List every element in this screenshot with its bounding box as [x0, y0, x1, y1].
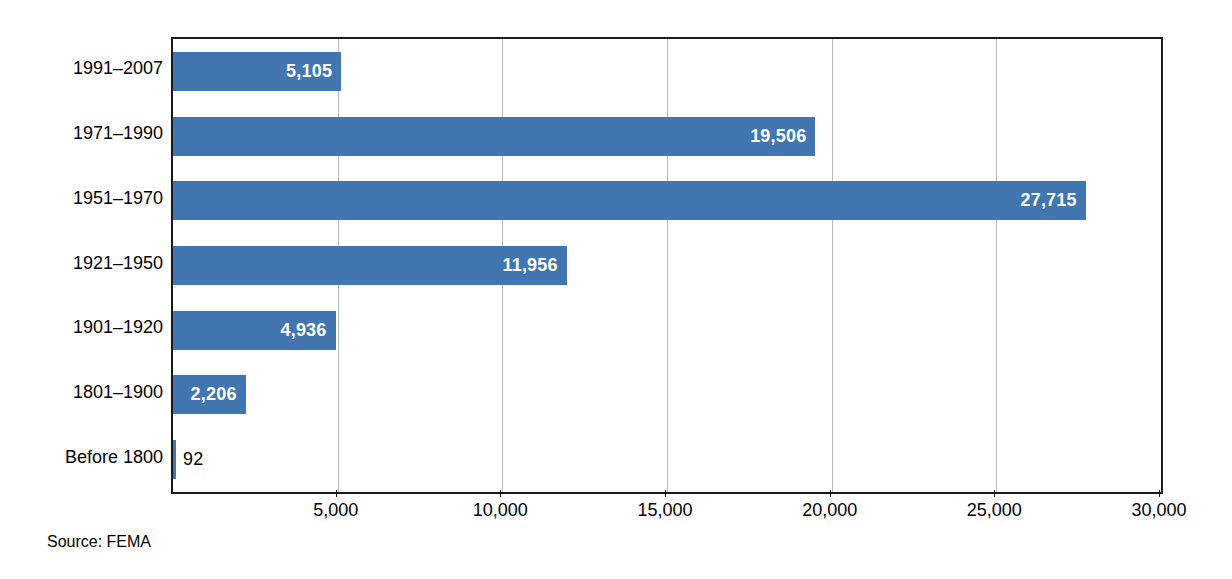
bar-value-label: 19,506: [750, 126, 815, 147]
bar: 4,936: [173, 311, 336, 350]
category-label: 1951–1970: [0, 188, 163, 209]
bar-value-label: 4,936: [281, 320, 336, 341]
category-label: 1971–1990: [0, 123, 163, 144]
bar: 92: [173, 440, 176, 479]
bar: 19,506: [173, 117, 815, 156]
category-label: 1991–2007: [0, 58, 163, 79]
bar-band: 92: [173, 427, 1161, 492]
x-axis-tick-mark: [336, 490, 337, 497]
category-label: 1921–1950: [0, 253, 163, 274]
bar-band: 5,105: [173, 39, 1161, 104]
x-axis-tick-label: 20,000: [802, 500, 857, 521]
bar: 5,105: [173, 52, 341, 91]
bar-band: 4,936: [173, 298, 1161, 363]
bar-band: 19,506: [173, 104, 1161, 169]
bar-value-label: 11,956: [502, 255, 566, 276]
x-axis-tick-label: 5,000: [313, 500, 358, 521]
x-axis-tick-labels: 5,00010,00015,00020,00025,00030,000: [0, 500, 1232, 530]
x-axis-tick-mark: [500, 490, 501, 497]
bar: 2,206: [173, 375, 246, 414]
plot-area: 5,10519,50627,71511,9564,9362,20692: [171, 37, 1163, 494]
bars-layer: 5,10519,50627,71511,9564,9362,20692: [173, 39, 1161, 492]
x-axis-tick-mark: [830, 490, 831, 497]
bar-value-label: 92: [176, 449, 203, 470]
bar: 27,715: [173, 181, 1086, 220]
bar-value-label: 2,206: [191, 384, 246, 405]
y-axis-category-labels: 1991–20071971–19901951–19701921–19501901…: [0, 37, 163, 490]
bar-value-label: 5,105: [286, 61, 341, 82]
x-axis-tick-label: 15,000: [637, 500, 692, 521]
bar-band: 27,715: [173, 168, 1161, 233]
x-axis-origin-cap: [171, 483, 173, 492]
x-axis-tick-label: 10,000: [473, 500, 528, 521]
category-label: Before 1800: [0, 447, 163, 468]
bar-chart: 1991–20071971–19901951–19701921–19501901…: [0, 0, 1232, 579]
x-axis-tick-mark: [665, 490, 666, 497]
bar: 11,956: [173, 246, 567, 285]
x-axis-tick-label: 30,000: [1131, 500, 1186, 521]
bar-band: 2,206: [173, 363, 1161, 428]
bar-band: 11,956: [173, 233, 1161, 298]
x-axis-tick-label: 25,000: [967, 500, 1022, 521]
category-label: 1801–1900: [0, 382, 163, 403]
category-label: 1901–1920: [0, 317, 163, 338]
bar-value-label: 27,715: [1020, 190, 1085, 211]
x-axis-tick-mark: [994, 490, 995, 497]
source-note: Source: FEMA: [47, 533, 151, 551]
x-axis-tick-mark: [1159, 490, 1160, 497]
